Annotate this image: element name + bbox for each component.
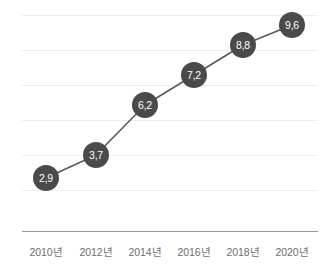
x-axis-labels: 2010년2012년2014년2016년2018년2020년 [0, 236, 334, 265]
data-point-marker: 9,6 [279, 12, 305, 38]
line-chart: 2,93,76,27,28,89,6 2010년2012년2014년2016년2… [0, 0, 334, 265]
data-point-marker: 3,7 [83, 142, 109, 168]
data-point-marker: 6,2 [132, 92, 158, 118]
data-point-label: 2,9 [39, 172, 53, 184]
data-point-label: 6,2 [138, 99, 152, 111]
x-tick-label: 2012년 [80, 244, 113, 259]
x-tick-label: 2016년 [178, 244, 211, 259]
data-point-marker: 8,8 [230, 32, 256, 58]
data-point-label: 7,2 [187, 69, 201, 81]
x-tick-label: 2014년 [129, 244, 162, 259]
data-point-label: 3,7 [89, 149, 103, 161]
data-point-marker: 7,2 [181, 62, 207, 88]
x-tick-label: 2018년 [227, 244, 260, 259]
data-point-label: 9,6 [285, 19, 299, 31]
data-point-marker: 2,9 [33, 165, 59, 191]
plot-area: 2,93,76,27,28,89,6 [0, 0, 334, 232]
x-tick-label: 2020년 [276, 244, 309, 259]
data-point-label: 8,8 [236, 39, 250, 51]
x-tick-label: 2010년 [30, 244, 63, 259]
